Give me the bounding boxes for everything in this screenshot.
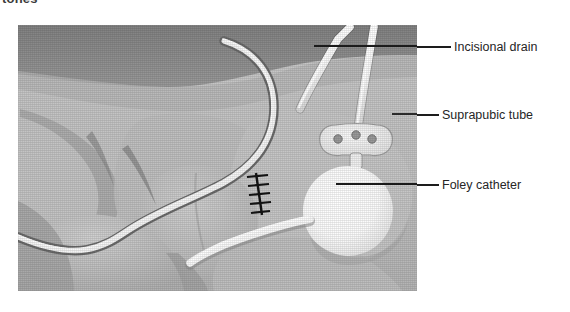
disc-hole-1 — [334, 135, 342, 143]
foley-balloon — [303, 166, 393, 256]
disc-hole-2 — [352, 131, 360, 139]
callout-label-foley-catheter: Foley catheter — [442, 178, 521, 192]
callout-label-suprapubic-tube: Suprapubic tube — [442, 108, 533, 122]
disc-hole-3 — [368, 135, 376, 143]
leader-line-suprapubic-tube — [417, 114, 439, 116]
illustration-svg — [18, 25, 417, 291]
leader-line-foley-catheter — [417, 184, 439, 186]
illustration-panel — [18, 25, 417, 291]
callout-label-incisional-drain: Incisional drain — [454, 40, 537, 54]
clipped-caption-text: tones — [2, 0, 38, 9]
leader-line-incisional-drain — [417, 46, 451, 48]
